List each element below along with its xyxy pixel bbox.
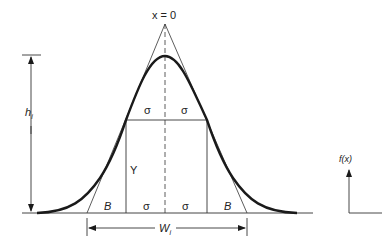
inflection-height-label: Y bbox=[130, 164, 138, 176]
fx-axis-label: f(x) bbox=[339, 154, 352, 164]
sigma-upper-left: σ bbox=[144, 104, 151, 116]
tangent-base-left-label: B bbox=[104, 200, 111, 212]
gaussian-curve bbox=[37, 56, 297, 213]
tangent-base-right-label: B bbox=[224, 200, 231, 212]
height-label: hi bbox=[25, 106, 33, 120]
gaussian-peak-diagram: x = 0 hi Wi σ σ σ σ Y B B f(x) bbox=[0, 0, 382, 247]
width-label: Wi bbox=[159, 222, 171, 236]
sigma-upper-right: σ bbox=[181, 104, 188, 116]
sigma-lower-left: σ bbox=[143, 200, 150, 212]
center-label: x = 0 bbox=[152, 9, 176, 21]
sigma-lower-right: σ bbox=[182, 200, 189, 212]
